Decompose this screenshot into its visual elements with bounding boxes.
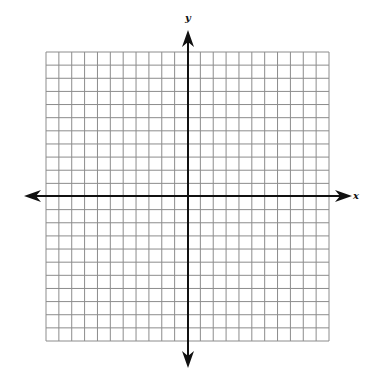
coordinate-plane [0,0,379,389]
x-axis-label: x [353,190,359,201]
y-axis-label: y [185,12,191,23]
